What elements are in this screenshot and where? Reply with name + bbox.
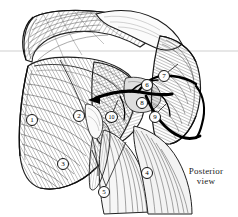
caption-line-2: view [178, 176, 234, 186]
callout-7: 7 [158, 70, 170, 82]
anatomy-figure: 1 2 3 4 5 6 7 8 9 10 Posterior view [0, 0, 238, 217]
callout-1: 1 [26, 114, 38, 126]
caption-line-1: Posterior [178, 166, 234, 176]
callout-5: 5 [98, 186, 110, 198]
view-caption: Posterior view [178, 166, 234, 186]
callout-2: 2 [73, 110, 85, 122]
callout-9: 9 [149, 111, 161, 123]
humerus-lateral-column [152, 36, 201, 144]
callout-10: 10 [105, 111, 118, 123]
callout-4: 4 [141, 167, 153, 179]
callout-6: 6 [141, 79, 153, 91]
callout-8: 8 [136, 97, 148, 109]
callout-3: 3 [57, 158, 69, 170]
